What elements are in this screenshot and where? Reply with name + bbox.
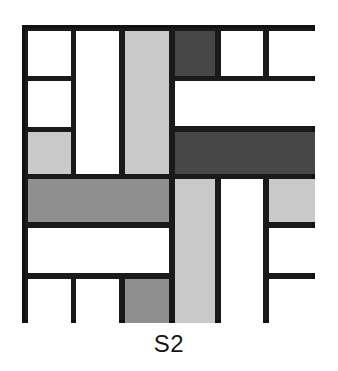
tile-r1c5 [221, 31, 263, 76]
tile-col3-tall [125, 31, 169, 174]
tile-r3c1 [28, 132, 71, 174]
tile-r6c1 [28, 279, 71, 323]
tile-r2-right-wide [175, 81, 315, 126]
tile-r6c6 [269, 279, 315, 323]
figure-root: S2 [0, 0, 338, 371]
tile-r5-left-wide [28, 228, 169, 273]
tile-r3-right-dark [175, 132, 315, 174]
tile-r2c1 [28, 81, 71, 127]
tile-col2-tall [76, 31, 119, 174]
tile-r4c6-light [269, 179, 315, 222]
tile-r4-left-mid [28, 179, 169, 222]
tile-r5c6 [269, 228, 315, 273]
figure-caption: S2 [0, 328, 338, 360]
tile-r1c1 [28, 31, 71, 76]
tile-r1c6 [269, 31, 315, 76]
tile-col4-tall-light [175, 179, 215, 323]
tile-r1c4-dark [175, 31, 215, 76]
tile-r6c3-mid [125, 279, 169, 323]
mosaic-square [22, 25, 315, 323]
tile-r6c2 [76, 279, 119, 323]
tile-col5-tall [221, 179, 263, 323]
